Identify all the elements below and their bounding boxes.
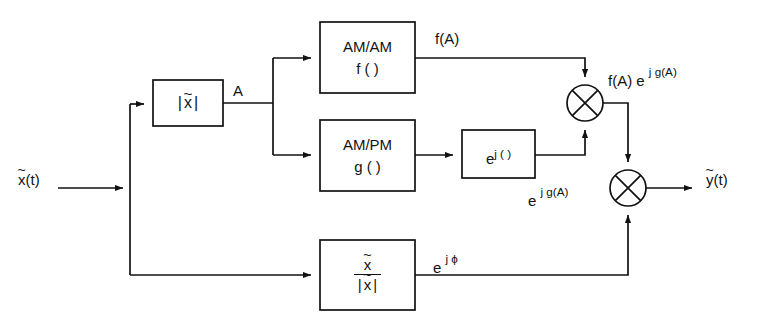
phase-normalizer-block-label: ~ x | ~ x | [320,240,415,310]
envelope-magnitude-block-label: | ~ x | [153,80,223,126]
amplitude-signal-label: A [233,83,243,98]
expjga-signal-label: e j g(A) [528,186,568,204]
envelope-bar-left: | [178,95,182,111]
multiplier-node-lower-cross [615,175,640,200]
tilde-mark-envelope: ~ [184,86,193,101]
input-signal-label: ~ x (t) [18,172,40,187]
wire-amam-to-mult1 [415,58,585,77]
expjphi-base: e [433,259,441,276]
am-am-block-label: AM/AM f ( ) [320,22,415,93]
output-signal-label: ~ y (t) [706,172,728,187]
complex-exponential-block-label: e j ( ) [462,130,535,178]
am-am-line-2: f ( ) [356,61,379,76]
phase-fraction-denominator: | ~ x | [354,274,381,293]
fa-signal-label: f(A) [435,31,459,46]
complex-exponential-base: e [486,151,494,166]
envelope-bar-right: | [194,95,198,111]
expjphi-signal-label: e j ϕ [433,253,458,271]
tilde-mark-phase-den: ~ [363,268,371,282]
am-pm-line-1: AM/PM [343,137,392,152]
phase-den-bar-left: | [358,276,362,293]
tilde-mark-phase-num: ~ [363,248,371,262]
input-signal-suffix: (t) [26,171,40,188]
fa-expjga-base: f(A) e [608,72,645,89]
tilde-mark-output: ~ [706,163,714,177]
am-am-line-1: AM/AM [343,39,392,54]
am-pm-block-label: AM/PM g ( ) [320,120,415,191]
multiplier-node-upper-cross [572,90,597,115]
phase-den-bar-right: | [373,276,377,293]
wire-expj-to-mult1 [535,130,585,155]
complex-exponential-exponent: j ( ) [494,148,511,160]
fa-expjga-exponent: j g(A) [649,65,677,78]
expjga-base: e [528,192,536,209]
expjphi-exponent: j ϕ [446,252,458,265]
expjga-exponent: j g(A) [541,185,569,198]
output-signal-suffix: (t) [714,171,728,188]
tilde-mark-input: ~ [18,163,26,177]
block-diagram-canvas: ~ x (t) | ~ x | A AM/AM f ( ) AM/PM g ( … [0,0,757,330]
wire-mult1-to-mult2 [603,103,628,162]
fa-expjga-signal-label: f(A) e j g(A) [608,66,677,84]
am-pm-line-2: g ( ) [354,159,381,174]
